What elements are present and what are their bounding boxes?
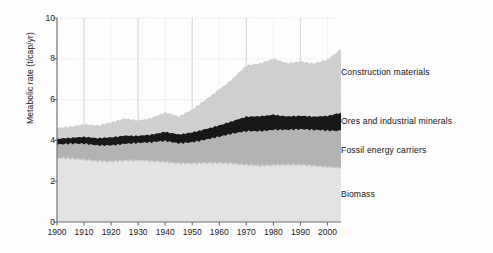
legend-label: Fossil energy carriers [341, 146, 426, 155]
legend-label: Biomass [341, 190, 375, 199]
legend-label: Construction materials [341, 68, 430, 77]
chart-figure: Metabolic rate (t/cap/yr) [0, 0, 493, 253]
legend-label: Ores and industrial minerals [341, 117, 452, 126]
chart-legend: Construction materialsOres and industria… [341, 0, 493, 253]
